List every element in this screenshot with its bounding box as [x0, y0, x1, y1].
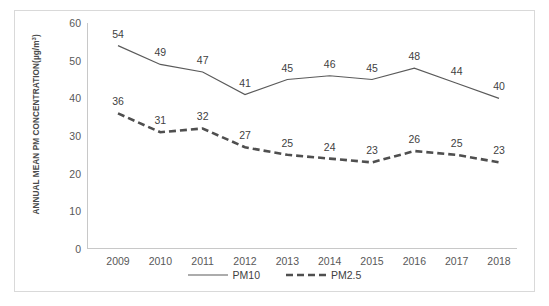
data-label: 54	[112, 28, 124, 40]
data-label: 24	[324, 141, 336, 153]
data-label: 26	[408, 133, 420, 145]
data-label: 45	[366, 62, 378, 74]
data-label: 27	[239, 129, 251, 141]
x-axis-tick-label: 2018	[487, 255, 510, 267]
x-axis-tick-label: 2012	[233, 255, 256, 267]
data-label: 44	[451, 65, 463, 77]
x-axis-tick-label: 2013	[276, 255, 299, 267]
y-axis-tick-label: 20	[69, 168, 81, 180]
data-label: 25	[451, 137, 463, 149]
x-axis-tick-label: 2016	[403, 255, 426, 267]
y-axis-title-text: ANNUAL MEAN PM CONCENTRATION(µg/m	[32, 40, 41, 214]
chart-legend: PM10PM2.5	[15, 269, 534, 281]
legend-label: PM10	[233, 269, 260, 281]
y-axis-tick-label: 60	[69, 17, 81, 29]
plot-area: 6050403020100 20092010201120122013201420…	[87, 23, 517, 249]
legend-swatch-solid-icon	[188, 270, 228, 280]
legend-item-pm2-5[interactable]: PM2.5	[286, 269, 361, 281]
data-label: 25	[281, 137, 293, 149]
x-axis-tick-label: 2010	[149, 255, 172, 267]
x-axis-tick-label: 2011	[191, 255, 214, 267]
y-axis-tick-label: 30	[69, 130, 81, 142]
data-label: 23	[493, 144, 505, 156]
y-axis-title-close: )	[32, 34, 41, 37]
x-axis-tick-label: 2017	[445, 255, 468, 267]
data-label: 41	[239, 77, 251, 89]
y-axis-tick-label: 0	[75, 243, 81, 255]
y-axis-tick-label: 40	[69, 92, 81, 104]
series-line-pm2-5	[118, 113, 499, 162]
chart-container: ANNUAL MEAN PM CONCENTRATION(µg/m3) 6050…	[14, 10, 535, 292]
y-axis-title-superscript: 3	[31, 37, 37, 40]
data-label: 45	[281, 62, 293, 74]
legend-label: PM2.5	[331, 269, 361, 281]
data-label: 23	[366, 144, 378, 156]
legend-swatch-dashed-icon	[286, 270, 326, 280]
x-axis-tick-label: 2014	[318, 255, 341, 267]
y-axis-tick-label: 50	[69, 55, 81, 67]
data-label: 40	[493, 80, 505, 92]
data-label: 36	[112, 95, 124, 107]
data-label: 49	[154, 46, 166, 58]
legend-item-pm10[interactable]: PM10	[188, 269, 260, 281]
data-label: 47	[197, 54, 209, 66]
x-axis-tick-label: 2015	[360, 255, 383, 267]
data-label: 46	[324, 58, 336, 70]
y-axis-tick-label: 10	[69, 205, 81, 217]
series-line-pm10	[118, 46, 499, 99]
data-label: 31	[154, 114, 166, 126]
data-label: 48	[408, 50, 420, 62]
data-label: 32	[197, 110, 209, 122]
x-axis-tick-label: 2009	[106, 255, 129, 267]
y-axis-title: ANNUAL MEAN PM CONCENTRATION(µg/m3)	[31, 19, 42, 229]
